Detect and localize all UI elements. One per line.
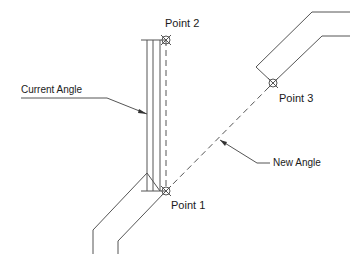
current-angle-wall [141, 40, 166, 191]
lower-left-boundary [93, 173, 166, 254]
current-angle-leader [21, 98, 147, 114]
point3-label: Point 3 [279, 93, 313, 104]
cad-diagram: Point 2 Point 1 Point 3 Current Angle Ne… [0, 0, 355, 254]
new-angle-label: New Angle [273, 158, 321, 168]
drawing-geometry [0, 0, 355, 254]
new-angle-arrowhead [220, 140, 227, 146]
new-angle-line [166, 83, 273, 191]
point3-marker-icon [268, 78, 278, 88]
point1-label: Point 1 [171, 200, 205, 211]
point2-label: Point 2 [165, 18, 199, 29]
current-angle-label: Current Angle [21, 85, 82, 95]
current-angle-arrowhead [138, 109, 147, 114]
point2-marker-icon [161, 35, 171, 45]
new-angle-leader [220, 140, 270, 163]
point1-marker-icon [161, 186, 171, 196]
upper-right-boundary [256, 12, 350, 83]
